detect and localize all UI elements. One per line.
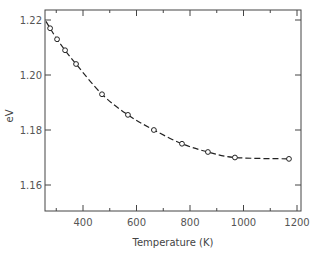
y-tick-label: 1.18	[20, 125, 42, 136]
x-tick-label: 400	[73, 217, 92, 228]
data-point	[63, 48, 68, 53]
plot-frame	[45, 10, 301, 211]
dashed-fit-line	[46, 21, 289, 159]
x-tick-label: 1000	[231, 217, 256, 228]
data-point	[74, 62, 79, 67]
axes-box	[45, 10, 301, 211]
data-curve	[46, 21, 289, 159]
data-point	[287, 156, 292, 161]
y-tick-label: 1.22	[20, 15, 42, 26]
y-tick-label: 1.16	[20, 180, 42, 191]
data-point	[180, 141, 185, 146]
data-point	[48, 26, 53, 31]
data-point	[233, 155, 238, 160]
data-point	[126, 112, 131, 117]
x-axis-label: Temperature (K)	[132, 237, 214, 248]
data-markers	[48, 26, 292, 161]
data-point	[151, 128, 156, 133]
x-tick-label: 1200	[284, 217, 309, 228]
data-point	[55, 37, 60, 42]
y-axis-label: eV	[4, 109, 15, 122]
data-point	[206, 150, 211, 155]
data-point	[100, 92, 105, 97]
x-tick-label: 800	[180, 217, 199, 228]
band-gap-chart: 400600800100012001.161.181.201.22 Temper…	[0, 0, 314, 254]
y-tick-label: 1.20	[20, 70, 42, 81]
x-tick-label: 600	[127, 217, 146, 228]
ticks: 400600800100012001.161.181.201.22	[20, 10, 310, 228]
